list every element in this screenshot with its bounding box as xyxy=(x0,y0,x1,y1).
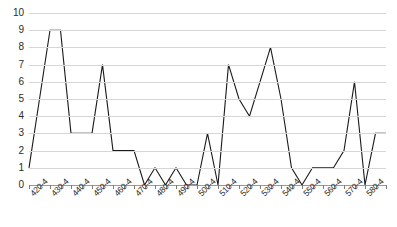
x-axis: 420-4430-4440-4450-4460-4470-4480-4490-4… xyxy=(29,185,386,227)
y-axis-tick-label: 7 xyxy=(18,60,24,70)
y-axis-tick-label: 2 xyxy=(18,146,24,156)
line-chart: 109876543210 420-4430-4440-4450-4460-447… xyxy=(0,0,397,227)
y-axis-tick-label: 0 xyxy=(18,180,24,190)
y-axis-tick-label: 3 xyxy=(18,128,24,138)
y-axis-tick-label: 9 xyxy=(18,25,24,35)
gridline xyxy=(29,168,386,169)
gridline xyxy=(29,151,386,152)
gridline xyxy=(29,13,386,14)
gridline xyxy=(29,116,386,117)
x-axis-tick-mark xyxy=(386,185,387,189)
y-axis-tick-label: 4 xyxy=(18,111,24,121)
gridline xyxy=(29,82,386,83)
gridline xyxy=(29,47,386,48)
gridline xyxy=(29,65,386,66)
y-axis-tick-label: 10 xyxy=(13,8,24,18)
y-axis-tick-label: 8 xyxy=(18,42,24,52)
y-axis-tick-label: 1 xyxy=(18,163,24,173)
y-axis-tick-label: 5 xyxy=(18,94,24,104)
y-axis: 109876543210 xyxy=(0,13,24,185)
y-axis-tick-label: 6 xyxy=(18,77,24,87)
gridline xyxy=(29,99,386,100)
plot-area xyxy=(29,13,386,185)
gridline xyxy=(29,30,386,31)
gridline xyxy=(29,133,386,134)
